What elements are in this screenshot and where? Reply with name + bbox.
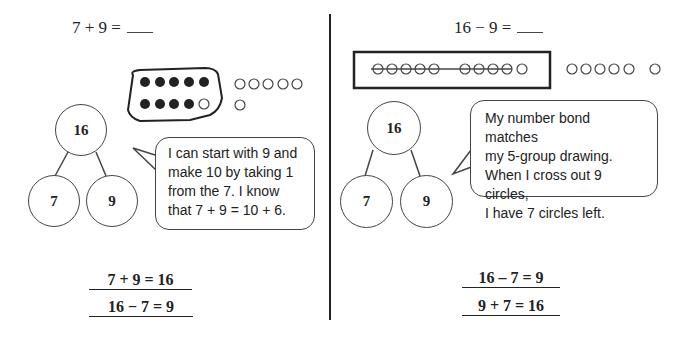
left-bond-part-a: 7 — [28, 175, 80, 227]
speech-line: My number bond matches — [485, 109, 643, 147]
right-bond-whole: 16 — [367, 101, 421, 155]
right-equation-1: 16 – 7 = 9 — [462, 269, 560, 288]
right-problem-text: 16 − 9 = — [454, 18, 511, 37]
left-equation-2: 16 − 7 = 9 — [89, 298, 193, 317]
bond-part-value: 9 — [108, 193, 116, 210]
bond-part-value: 7 — [363, 193, 371, 210]
bond-part-value: 9 — [423, 193, 431, 210]
right-bond-part-b: 9 — [400, 175, 453, 228]
right-bond-part-a: 7 — [340, 175, 393, 228]
speech-line: from the 7. I know — [168, 182, 302, 201]
speech-line: When I cross out 9 circles, — [485, 166, 643, 204]
left-bond-part-b: 9 — [86, 175, 138, 227]
speech-line: make 10 by taking 1 — [168, 163, 302, 182]
bond-part-value: 7 — [50, 193, 58, 210]
left-equation-1: 7 + 9 = 16 — [89, 271, 192, 290]
left-speech-bubble: I can start with 9 and make 10 by taking… — [155, 137, 315, 230]
bond-whole-value: 16 — [74, 122, 89, 139]
right-problem: 16 − 9 = — [454, 18, 543, 38]
speech-line: that 7 + 9 = 10 + 6. — [168, 201, 302, 220]
right-speech-bubble: My number bond matches my 5-group drawin… — [470, 100, 658, 197]
bond-whole-value: 16 — [387, 120, 402, 137]
speech-line: my 5-group drawing. — [485, 147, 643, 166]
speech-line: I can start with 9 and — [168, 144, 302, 163]
speech-line: I have 7 circles left. — [485, 204, 643, 223]
answer-blank — [517, 18, 543, 33]
right-equation-2: 9 + 7 = 16 — [462, 297, 560, 316]
left-bond-whole: 16 — [55, 104, 107, 156]
